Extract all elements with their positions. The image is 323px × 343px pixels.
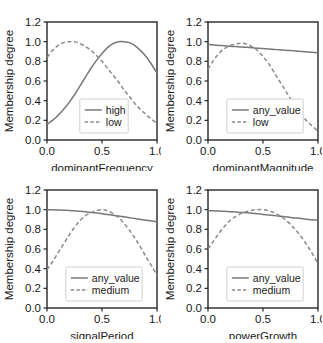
curve-any_value [47, 210, 157, 222]
y-tick-label: 1.2 [186, 184, 202, 196]
x-tick-label: 0.5 [255, 313, 271, 325]
y-tick-label: 0.2 [25, 114, 41, 126]
y-axis-title: Membership degree [3, 198, 15, 300]
y-tick-label: 1.0 [186, 204, 202, 216]
curve-any_value [208, 211, 318, 221]
x-tick-label: 1.0 [149, 145, 161, 157]
y-tick-label: 1.0 [186, 36, 202, 48]
y-tick-label: 0.4 [186, 95, 203, 107]
x-tick-label: 0.0 [200, 313, 216, 325]
y-tick-label: 1.0 [25, 204, 41, 216]
legend-label-medium: medium [253, 284, 291, 296]
y-tick-label: 0.4 [25, 263, 42, 275]
y-axis-title: Membership degree [164, 198, 176, 300]
chart-panel-signalPeriod: 0.00.20.40.60.81.01.20.00.51.0signalPeri… [0, 168, 161, 339]
y-tick-label: 0.4 [186, 263, 203, 275]
y-tick-label: 0.6 [186, 243, 202, 255]
y-tick-label: 0.6 [186, 75, 202, 87]
y-axis-title: Membership degree [3, 30, 15, 132]
figure-grid: 0.00.20.40.60.81.01.20.00.51.0dominantFr… [0, 0, 323, 343]
x-axis-title: signalPeriod [70, 330, 133, 339]
x-tick-label: 0.0 [39, 313, 55, 325]
x-tick-label: 1.0 [149, 313, 161, 325]
y-tick-label: 0.2 [25, 282, 41, 294]
legend-label-low: low [253, 116, 269, 128]
x-tick-label: 1.0 [310, 313, 322, 325]
y-tick-label: 0.2 [186, 114, 202, 126]
legend-label-any_value: any_value [92, 272, 140, 284]
x-tick-label: 0.0 [39, 145, 55, 157]
x-tick-label: 0.5 [94, 313, 110, 325]
chart-panel-powerGrowth: 0.00.20.40.60.81.01.20.00.51.0powerGrowt… [161, 168, 322, 339]
legend-label-medium: medium [92, 284, 130, 296]
y-tick-label: 0.6 [25, 75, 41, 87]
y-tick-label: 0.4 [25, 95, 42, 107]
y-axis-title: Membership degree [164, 30, 176, 132]
x-tick-label: 0.0 [200, 145, 216, 157]
legend-label-high: high [106, 104, 126, 116]
legend-label-low: low [106, 116, 122, 128]
curve-medium [208, 210, 318, 264]
y-tick-label: 1.2 [25, 16, 41, 28]
y-tick-label: 0.8 [25, 55, 41, 67]
x-axis-title: powerGrowth [229, 330, 297, 339]
x-tick-label: 0.5 [94, 145, 110, 157]
y-tick-label: 1.2 [186, 16, 202, 28]
chart-panel-dominantMagnitude: 0.00.20.40.60.81.01.20.00.51.0dominantMa… [161, 0, 322, 171]
y-tick-label: 0.8 [25, 223, 41, 235]
x-tick-label: 0.5 [255, 145, 271, 157]
y-tick-label: 1.0 [25, 36, 41, 48]
y-tick-label: 0.6 [25, 243, 41, 255]
y-tick-label: 0.2 [186, 282, 202, 294]
y-tick-label: 0.8 [186, 55, 202, 67]
y-tick-label: 1.2 [25, 184, 41, 196]
x-tick-label: 1.0 [310, 145, 322, 157]
legend-label-any_value: any_value [253, 272, 301, 284]
legend-label-any_value: any_value [253, 104, 301, 116]
chart-panel-dominantFrequency: 0.00.20.40.60.81.01.20.00.51.0dominantFr… [0, 0, 161, 171]
y-tick-label: 0.8 [186, 223, 202, 235]
